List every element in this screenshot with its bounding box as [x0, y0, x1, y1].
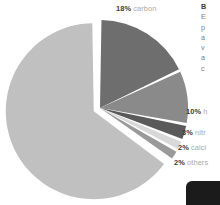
pie-label-carbon-value: 18%: [116, 4, 131, 13]
side-body-copy-line: v: [201, 43, 220, 53]
side-body-copy: BEpavac: [201, 2, 220, 76]
pie-label-hydrogen-name: h: [203, 107, 207, 116]
pie-label-hydrogen: 10%h: [186, 107, 208, 116]
pie-label-others-value: 2%: [174, 158, 185, 167]
chart-figure: 18%carbon 10%h 3%nitr 2%calci 2%others B…: [0, 0, 220, 205]
pie-chart-svg: [0, 0, 220, 205]
side-body-copy-line: a: [201, 53, 220, 63]
pie-label-carbon: 18%carbon: [116, 4, 156, 13]
pie-chart: [0, 0, 220, 205]
side-body-copy-line: B: [201, 2, 220, 12]
pie-slices: [6, 20, 188, 199]
pie-label-nitrogen-name: nitr: [195, 128, 206, 137]
corner-panel: [186, 181, 220, 205]
pie-label-nitrogen: 3%nitr: [182, 128, 206, 137]
side-body-copy-line: p: [201, 23, 220, 33]
pie-label-calcium-name: calci: [191, 143, 206, 152]
side-body-copy-line: a: [201, 33, 220, 43]
pie-label-hydrogen-value: 10%: [186, 107, 201, 116]
pie-label-calcium-value: 2%: [178, 143, 189, 152]
side-body-copy-line: c: [201, 64, 220, 74]
pie-label-others: 2%others: [174, 158, 208, 167]
pie-label-others-name: others: [187, 158, 208, 167]
pie-label-calcium: 2%calci: [178, 143, 206, 152]
pie-label-carbon-name: carbon: [133, 4, 156, 13]
side-body-copy-line: E: [201, 12, 220, 22]
pie-label-nitrogen-value: 3%: [182, 128, 193, 137]
